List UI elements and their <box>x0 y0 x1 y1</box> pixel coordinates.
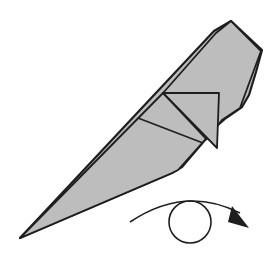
turn-over-icon <box>130 201 249 243</box>
origami-diagram <box>0 0 280 267</box>
main-body <box>20 21 261 238</box>
